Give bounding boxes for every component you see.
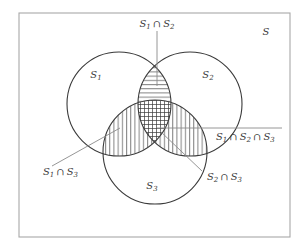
s2-inter-s3-label: S2∩S3	[207, 171, 243, 184]
venn-diagram-figure: S1 S2 S3 S S1∩S2 S1∩S2∩S3 S1∩S3 S2∩S3	[0, 0, 307, 252]
s1-inter-s3-label: S1∩S3	[43, 166, 79, 179]
universal-set-label: S	[263, 26, 270, 37]
venn-diagram-canvas: S1 S2 S3 S S1∩S2 S1∩S2∩S3 S1∩S3 S2∩S3	[0, 0, 307, 252]
s1-inter-s2-label: S1∩S2	[139, 18, 175, 31]
